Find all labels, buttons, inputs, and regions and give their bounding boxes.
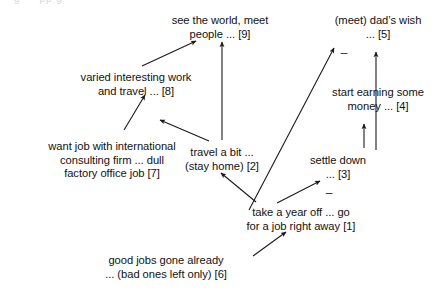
node-7-line-1: want job with international	[48, 140, 175, 154]
node-8-line-2: and travel ... [8]	[81, 85, 192, 99]
node-5: (meet) dad’s wish... [5]	[335, 14, 422, 41]
node-6-line-1: good jobs gone already	[105, 254, 227, 268]
node-3-line-1: settle down	[310, 154, 366, 168]
edge-sign-negative-1: –	[341, 47, 348, 59]
node-9-line-2: people ... [9]	[172, 28, 269, 42]
node-2-line-1: travel a bit ...	[185, 146, 259, 160]
node-9: see the world, meetpeople ... [9]	[172, 14, 269, 41]
node-4-line-2: money ... [4]	[332, 100, 424, 114]
node-7: want job with internationalconsulting fi…	[48, 140, 175, 181]
node-8: varied interesting workand travel ... [8…	[81, 71, 192, 98]
edge-1-to-5	[249, 48, 334, 210]
edge-8-to-9	[142, 41, 196, 66]
node-8-line-1: varied interesting work	[81, 71, 192, 85]
node-1: take a year off ... gofor a job right aw…	[247, 206, 356, 233]
edge-1-to-3	[277, 181, 320, 203]
node-1-line-2: for a job right away [1]	[247, 220, 356, 234]
edge-7-to-8	[124, 95, 145, 130]
node-5-line-1: (meet) dad’s wish	[335, 14, 422, 28]
node-4: start earning somemoney ... [4]	[332, 86, 424, 113]
cognitive-map-diagram: g pp g see the world, meetpeople ... [9]…	[0, 0, 439, 293]
node-6: good jobs gone already... (bad ones left…	[105, 254, 227, 281]
node-7-line-3: factory office job [7]	[48, 167, 175, 181]
node-1-line-1: take a year off ... go	[247, 206, 356, 220]
cut-off-caption-fragment: g pp g	[14, 0, 63, 4]
node-6-line-2: ... (bad ones left only) [6]	[105, 268, 227, 282]
node-9-line-1: see the world, meet	[172, 14, 269, 28]
edge-6-to-1	[253, 232, 286, 256]
node-7-line-2: consulting firm ... dull	[48, 154, 175, 168]
edge-2-to-7	[160, 120, 209, 141]
node-2-line-2: (stay home) [2]	[185, 160, 259, 174]
node-3-line-2: ... [3]	[310, 168, 366, 182]
node-3: settle down... [3]	[310, 154, 366, 181]
node-2: travel a bit ...(stay home) [2]	[185, 146, 259, 173]
node-4-line-1: start earning some	[332, 86, 424, 100]
node-5-line-2: ... [5]	[335, 28, 422, 42]
edge-sign-negative-2: –	[326, 187, 333, 199]
edge-1-to-2	[221, 173, 256, 202]
